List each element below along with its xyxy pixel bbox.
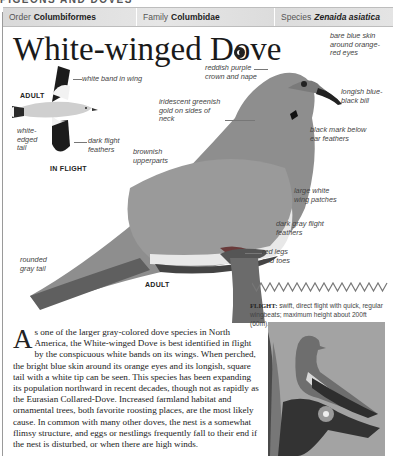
order-label: Order [9,12,31,22]
leader-line [225,120,255,121]
running-head: PIGEONS AND DOVES [0,0,133,5]
description-text: s one of the larger gray-colored dove sp… [13,327,259,449]
order-cell: OrderColumbiformes [3,8,137,26]
label-upperparts: brownish upperparts [133,148,183,165]
species-value: Zenaida asiatica [314,12,380,22]
flight-pattern-icon [252,280,388,294]
label-eye-skin: bare blue skin around orange-red eyes [330,32,390,58]
species-description: As one of the larger gray-colored dove s… [13,327,259,450]
species-cell: SpeciesZenaida asiatica [275,8,393,26]
family-label: Family [143,12,168,22]
speaker-icon[interactable] [234,47,245,58]
label-flight-feathers: dark gray flight feathers [276,220,336,237]
leader-line [254,69,268,70]
dove-on-cactus-photo [268,322,385,456]
label-tail: rounded gray tail [20,256,60,273]
label-crown: reddish purple crown and nape [205,64,259,81]
label-ear-mark: black mark below ear feathers [310,126,372,143]
label-legs: red legs and toes [262,248,302,265]
drop-cap: A [13,328,33,350]
label-wing-patches: large white wing patches [294,187,344,204]
label-bill: longish blue-black bill [341,88,391,105]
field-guide-page: PIGEONS AND DOVES OrderColumbiformes Fam… [0,0,393,456]
habitat-photo [268,322,385,456]
flight-label: FLIGHT: [250,302,277,309]
perched-adult-label: ADULT [145,281,170,288]
family-cell: FamilyColumbidae [137,8,275,26]
label-neck: iridescent greenish gold on sides of nec… [159,98,225,124]
order-value: Columbiformes [34,12,96,22]
page-edge [2,12,3,456]
taxonomy-bar: OrderColumbiformes FamilyColumbidae Spec… [3,7,393,27]
species-label: Species [281,12,311,22]
leader-line [245,253,262,254]
family-value: Columbidae [171,12,220,22]
